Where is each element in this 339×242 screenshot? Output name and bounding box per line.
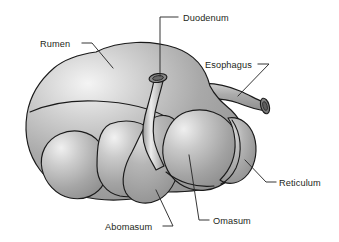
label-omasum: Omasum bbox=[213, 216, 251, 226]
label-esophagus: Esophagus bbox=[205, 60, 252, 70]
ruminant-stomach-diagram: Rumen Duodenum Esophagus Reticulum Omasu… bbox=[0, 0, 339, 242]
figure-root: Rumen Duodenum Esophagus Reticulum Omasu… bbox=[0, 0, 339, 242]
label-duodenum: Duodenum bbox=[183, 13, 229, 23]
label-rumen: Rumen bbox=[40, 39, 70, 49]
label-reticulum: Reticulum bbox=[279, 178, 321, 188]
label-abomasum: Abomasum bbox=[105, 222, 153, 232]
